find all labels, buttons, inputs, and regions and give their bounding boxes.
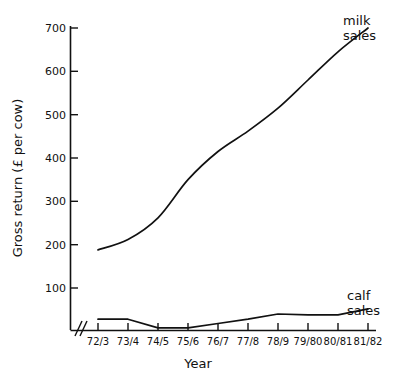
chart-container: 700 600 500 400 300 200 100 72/3 73/4 74…: [0, 0, 395, 384]
x-tick-label-2: 74/5: [147, 336, 169, 347]
x-tick-label-0: 72/3: [87, 336, 109, 347]
y-tick-label-200: 200: [45, 239, 66, 252]
y-tick-label-300: 300: [45, 195, 66, 208]
milk-sales-label-line2: sales: [343, 28, 376, 43]
y-tick-label-400: 400: [45, 152, 66, 165]
x-tick-label-3: 75/6: [177, 336, 199, 347]
x-tick-label-6: 78/9: [267, 336, 289, 347]
x-tick-label-1: 73/4: [117, 336, 139, 347]
milk-sales-label-line1: milk: [343, 13, 371, 28]
calf-sales-label-line1: calf: [347, 288, 371, 303]
x-tick-label-7: 79/80: [294, 336, 323, 347]
x-tick-label-5: 77/8: [237, 336, 259, 347]
line-chart: 700 600 500 400 300 200 100 72/3 73/4 74…: [0, 0, 395, 384]
y-axis-title: Gross return (£ per cow): [10, 99, 25, 258]
x-tick-label-8: 80/81: [324, 336, 353, 347]
y-tick-label-700: 700: [45, 22, 66, 35]
y-tick-label-100: 100: [45, 282, 66, 295]
y-tick-label-500: 500: [45, 109, 66, 122]
x-tick-label-4: 76/7: [207, 336, 229, 347]
y-tick-label-600: 600: [45, 65, 66, 78]
x-tick-label-9: 81/82: [354, 336, 383, 347]
x-axis-title: Year: [183, 356, 212, 371]
calf-sales-label-line2: sales: [347, 303, 380, 318]
